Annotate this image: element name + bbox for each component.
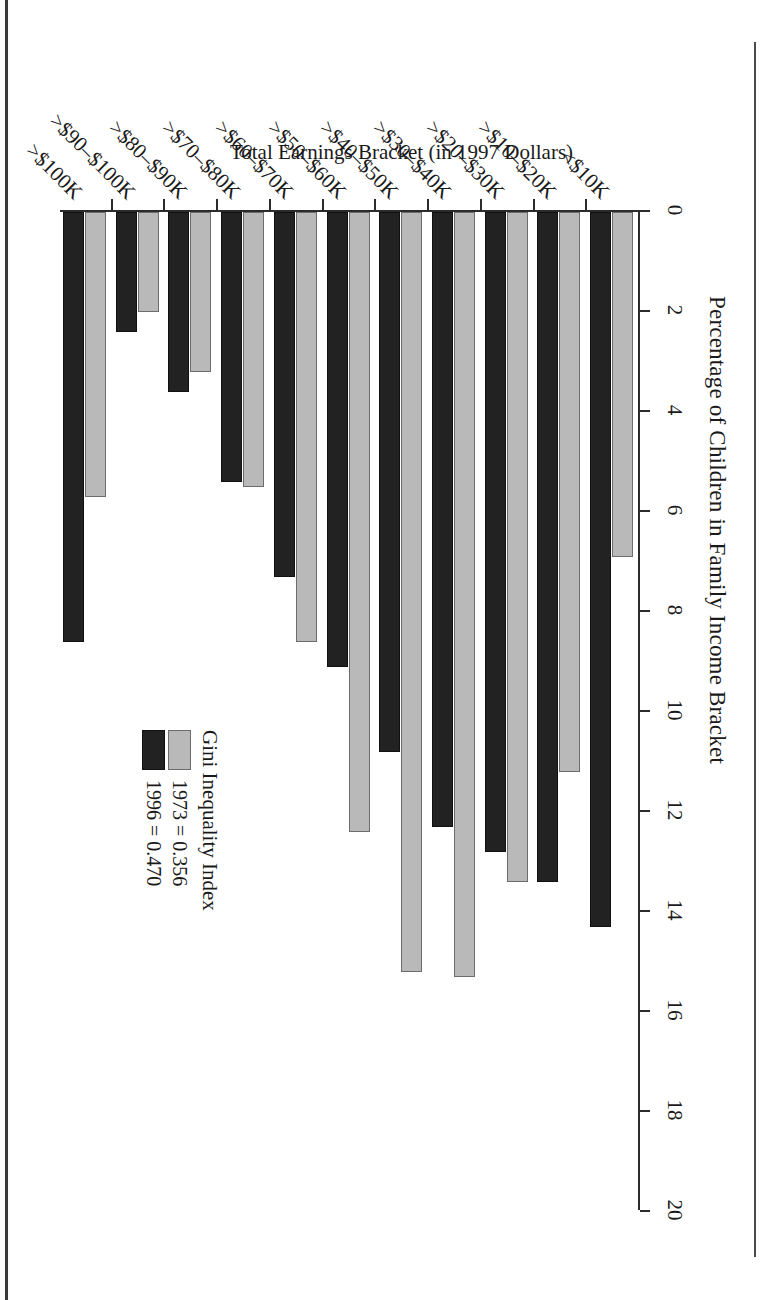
category-axis-tick (374, 199, 376, 210)
bar-1996 (537, 212, 558, 882)
value-axis-tick (640, 1110, 650, 1112)
legend-swatch-gray-icon (168, 730, 191, 770)
bar-1996 (379, 212, 400, 752)
value-axis-tick-label: 18 (664, 1090, 686, 1130)
bar-1996 (115, 212, 136, 332)
value-axis-tick (640, 410, 650, 412)
value-axis-tick (640, 610, 650, 612)
bar-group: <$10K (587, 210, 640, 1210)
legend-label-1996: 1996 = 0.470 (142, 780, 165, 886)
bar-1973 (137, 212, 158, 312)
category-axis-tick (321, 199, 323, 210)
legend-label-1973: 1973 = 0.356 (168, 780, 191, 886)
bar-group: >$20–$30K (481, 210, 534, 1210)
legend: Gini Inequality Index 1973 = 0.356 1996 … (139, 730, 222, 1030)
bar-group: >$40–$50K (376, 210, 429, 1210)
bar-1973 (401, 212, 422, 972)
category-axis-tick (268, 199, 270, 210)
bar-1973 (559, 212, 580, 772)
value-axis-tick-label: 12 (664, 790, 686, 830)
bar-1996 (221, 212, 242, 482)
value-axis-tick-label: 14 (664, 890, 686, 930)
value-axis-title: Percentage of Children in Family Income … (704, 210, 730, 850)
bar-group: >$10–$20K (534, 210, 587, 1210)
category-axis-tick (585, 199, 587, 210)
value-axis-tick (640, 310, 650, 312)
bar-1996 (273, 212, 294, 577)
value-axis-tick (640, 1210, 650, 1212)
value-axis-tick (640, 1010, 650, 1012)
bar-1996 (62, 212, 83, 642)
bar-1996 (431, 212, 452, 827)
value-axis-tick-label: 8 (664, 590, 686, 630)
bar-group: >$80–$90K (165, 210, 218, 1210)
bar-1973 (453, 212, 474, 977)
bar-group: >$90–$100K (112, 210, 165, 1210)
bar-1973 (612, 212, 633, 557)
bar-1973 (295, 212, 316, 642)
page-rule-right (754, 42, 756, 1257)
value-axis-tick (640, 810, 650, 812)
value-axis-tick-label: 0 (664, 190, 686, 230)
page-rule-left (5, 0, 8, 1300)
bar-group: >$30–$40K (429, 210, 482, 1210)
value-axis-tick-label: 6 (664, 490, 686, 530)
value-axis-tick (640, 910, 650, 912)
bar-group: >$60–$70K (270, 210, 323, 1210)
bar-1996 (590, 212, 611, 927)
bar-1973 (348, 212, 369, 832)
category-axis-tick (110, 199, 112, 210)
plot-area: 02468101214161820 <$10K>$10–$20K>$20–$30… (60, 210, 640, 1210)
value-axis-tick-label: 20 (664, 1190, 686, 1230)
category-axis-tick (216, 199, 218, 210)
legend-title: Gini Inequality Index (197, 730, 222, 1030)
bar-1973 (84, 212, 105, 497)
bar-group: >$70–$80K (218, 210, 271, 1210)
value-axis-tick (640, 710, 650, 712)
bar-1996 (326, 212, 347, 667)
value-axis-tick-label: 2 (664, 290, 686, 330)
value-axis-tick (640, 510, 650, 512)
bar-1973 (190, 212, 211, 372)
bar-group: >$50–$60K (323, 210, 376, 1210)
legend-item-1973: 1973 = 0.356 (168, 730, 191, 1030)
bar-chart-figure: Percentage of Children in Family Income … (36, 60, 736, 1240)
value-axis-tick (640, 210, 650, 212)
category-axis-tick (163, 199, 165, 210)
bar-group: >$100K (60, 210, 113, 1210)
bar-1996 (168, 212, 189, 392)
bar-1973 (506, 212, 527, 882)
figure-rotated-wrapper: Percentage of Children in Family Income … (36, 60, 736, 1240)
bar-1996 (484, 212, 505, 852)
legend-swatch-black-icon (142, 730, 165, 770)
value-axis-tick-label: 10 (664, 690, 686, 730)
value-axis-tick-label: 4 (664, 390, 686, 430)
category-axis-tick (427, 199, 429, 210)
legend-item-1996: 1996 = 0.470 (142, 730, 165, 1030)
value-axis-tick-label: 16 (664, 990, 686, 1030)
category-axis-tick (532, 199, 534, 210)
category-axis-tick (479, 199, 481, 210)
bar-1973 (243, 212, 264, 487)
